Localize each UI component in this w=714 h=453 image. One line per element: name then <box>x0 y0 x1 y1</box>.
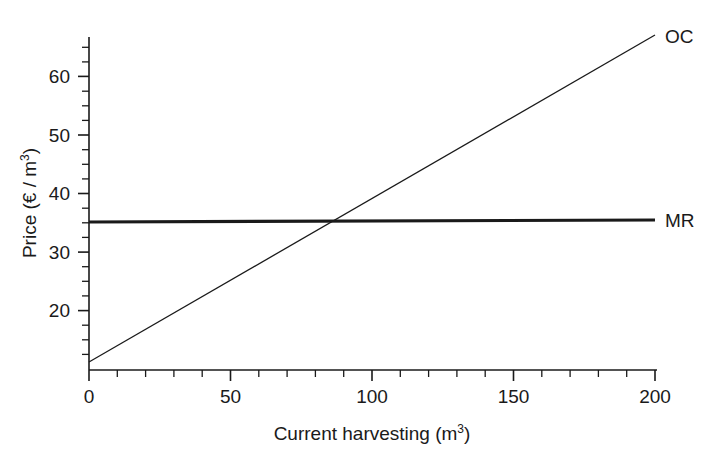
y-tick-label-20: 20 <box>49 300 70 321</box>
y-axis-title: Price (€ / m3) <box>18 148 40 258</box>
x-tick-label-200: 200 <box>639 386 671 407</box>
y-axis-title-tail: ) <box>19 148 40 154</box>
series-label-oc: OC <box>665 26 694 47</box>
x-tick-label-100: 100 <box>356 386 388 407</box>
x-tick-label-0: 0 <box>84 386 95 407</box>
x-axis-title: Current harvesting (m3) <box>274 422 471 444</box>
y-axis-title-base: Price (€ / m <box>19 161 40 258</box>
y-tick-label-40: 40 <box>49 183 70 204</box>
x-tick-label-50: 50 <box>220 386 241 407</box>
chart-figure: 20 30 40 50 60 <box>0 0 714 453</box>
x-tick-label-150: 150 <box>498 386 530 407</box>
y-tick-label-60: 60 <box>49 66 70 87</box>
x-axis-title-tail: ) <box>464 423 470 444</box>
x-axis-title-base: Current harvesting (m <box>274 423 458 444</box>
series-label-mr: MR <box>665 210 695 231</box>
y-tick-label-50: 50 <box>49 125 70 146</box>
y-tick-label-30: 30 <box>49 242 70 263</box>
price-vs-harvesting-line-chart: 20 30 40 50 60 <box>0 0 714 453</box>
series-line-mr <box>89 220 655 222</box>
